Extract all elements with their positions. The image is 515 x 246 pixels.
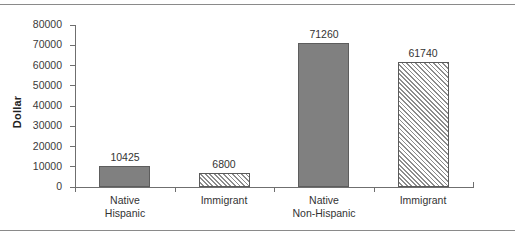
bar: [199, 173, 250, 187]
y-axis-tick-label: 70000: [0, 39, 62, 49]
y-axis-tick-label: 80000: [0, 19, 62, 29]
y-axis-tick-label: 20000: [0, 141, 62, 151]
bar: [398, 62, 449, 187]
bar-chart-figure: Dollar 010000200003000040000500006000070…: [0, 0, 515, 246]
bar: [298, 43, 349, 187]
y-axis-tick: [70, 65, 75, 66]
y-axis-tick-label: 40000: [0, 100, 62, 110]
bottom-divider-rule: [0, 230, 515, 231]
bar-value-label: 6800: [194, 159, 254, 170]
x-axis-category-label: NativeNon-Hispanic: [269, 194, 379, 220]
category-label-line1: Immigrant: [201, 194, 248, 206]
x-axis-category-label: NativeHispanic: [70, 194, 180, 220]
y-axis-tick-label: 10000: [0, 161, 62, 171]
y-axis-tick: [70, 85, 75, 86]
x-axis-tick: [175, 187, 176, 192]
y-axis-tick-label: 30000: [0, 120, 62, 130]
top-divider-rule: [0, 4, 515, 5]
x-axis-category-label: Immigrant: [368, 194, 478, 207]
y-axis-tick: [70, 126, 75, 127]
bar-value-label: 61740: [393, 48, 453, 59]
y-axis-tick: [70, 146, 75, 147]
y-axis-tick: [70, 25, 75, 26]
y-axis-spine: [75, 25, 76, 188]
y-axis-tick-label: 0: [0, 181, 62, 191]
y-axis-tick: [70, 106, 75, 107]
bar: [99, 166, 150, 187]
y-axis-tick-label: 60000: [0, 60, 62, 70]
y-axis-tick: [70, 45, 75, 46]
y-axis-tick: [70, 166, 75, 167]
x-axis-tick: [75, 187, 76, 192]
category-label-line2: Non-Hispanic: [269, 207, 379, 220]
category-label-line2: Hispanic: [70, 207, 180, 220]
bar-value-label: 71260: [294, 29, 354, 40]
category-label-line1: Native: [309, 194, 339, 206]
y-axis-tick-label: 50000: [0, 80, 62, 90]
x-axis-tick: [473, 182, 474, 188]
x-axis-tick: [274, 187, 275, 192]
x-axis-category-label: Immigrant: [169, 194, 279, 207]
category-label-line1: Immigrant: [400, 194, 447, 206]
bar-value-label: 10425: [95, 152, 155, 163]
x-axis-tick: [374, 187, 375, 192]
category-label-line1: Native: [110, 194, 140, 206]
y-axis-title: Dollar: [8, 83, 26, 143]
